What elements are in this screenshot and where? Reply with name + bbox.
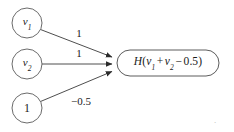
output-node-expression: H(v1+v2−0.5)	[134, 56, 202, 70]
node-v1-subscript: 1	[28, 23, 32, 32]
output-term2-subscript: 2	[170, 63, 174, 72]
output-term1-base: v	[146, 55, 151, 67]
output-term1-subscript: 1	[151, 63, 155, 72]
output-paren-close: )	[198, 55, 202, 67]
output-operator-plus: +	[155, 55, 165, 67]
edge-label-bias-weight: −0.5	[71, 96, 91, 107]
output-threshold-value: 0.5	[184, 55, 199, 67]
node-v2-subscript: 2	[28, 64, 32, 73]
node-label-bias: 1	[24, 102, 30, 114]
diagram-canvas: v1 v2 1 1 1 −0.5 H(v1+v2−0.5) .	[0, 0, 234, 132]
output-operator-minus: −	[174, 55, 184, 67]
node-label-v2: v2	[23, 57, 32, 71]
trailing-period-mark: .	[214, 116, 216, 125]
edge-label-v1-weight: 1	[76, 28, 82, 39]
edge-label-v2-weight: 1	[76, 48, 82, 59]
node-label-v1: v1	[23, 16, 32, 30]
